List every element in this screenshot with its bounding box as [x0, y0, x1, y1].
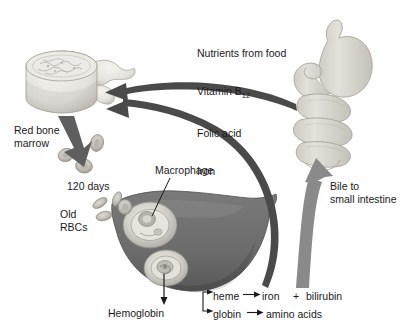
lifespan-label: 120 days [67, 180, 110, 193]
plus-sign-label: + [293, 290, 299, 303]
old-rbc [91, 195, 109, 210]
vitamin-b-subscript: 12 [242, 91, 250, 100]
macrophage-label: Macrophage [155, 164, 213, 177]
amino-acids-label: amino acids [266, 308, 322, 321]
globin-label: globin [213, 308, 241, 321]
heme-arrow [243, 292, 261, 298]
liver [112, 191, 277, 293]
heme-label: heme [213, 290, 239, 303]
bilirubin-label: bilirubin [306, 290, 342, 303]
bile-label: Bile to small intestine [330, 180, 397, 205]
iron-label: iron [262, 290, 280, 303]
nutrients-line-1: Nutrients from food [197, 47, 286, 60]
globin-arrow [247, 310, 264, 316]
old-rbc [95, 210, 113, 223]
stomach-small-intestine [293, 20, 372, 170]
hemoglobin-site [144, 250, 188, 286]
red-bone-marrow-label: Red bone marrow [14, 124, 60, 149]
hemoglobin-label: Hemoglobin [108, 307, 164, 320]
nutrients-line-2: Vitamin B12 [197, 85, 286, 103]
old-rbcs-label: Old RBCs [60, 208, 87, 233]
vitamin-b-text: Vitamin B [197, 85, 242, 97]
old-rbc [118, 200, 132, 215]
nutrients-line-3: Folic acid [197, 127, 286, 140]
bile-arrow [296, 158, 333, 288]
hemoglobin-bracket [203, 290, 214, 314]
